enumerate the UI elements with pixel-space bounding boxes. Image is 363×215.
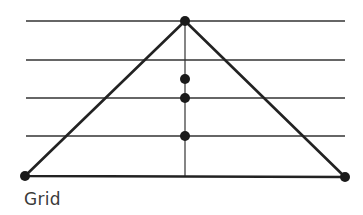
median-point-2-dot	[180, 93, 190, 103]
caption: Grid	[24, 189, 61, 209]
median-point-3-dot	[180, 131, 190, 141]
grid-triangle-diagram	[0, 0, 363, 215]
median-point-1-dot	[180, 74, 190, 84]
apex-dot	[180, 16, 190, 26]
right-vertex-dot	[340, 172, 350, 182]
left-vertex-dot	[20, 171, 30, 181]
